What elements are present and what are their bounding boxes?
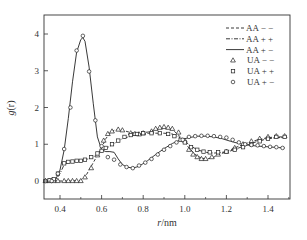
square-marker xyxy=(110,143,113,146)
square-marker xyxy=(202,150,205,153)
circle-marker xyxy=(143,161,147,165)
circle-marker xyxy=(231,138,235,142)
legend-label: AA − − xyxy=(246,23,273,33)
x-tick-label: 0.4 xyxy=(54,204,66,214)
square-marker xyxy=(96,152,99,155)
circle-marker xyxy=(69,106,73,110)
circle-marker xyxy=(131,166,135,170)
square-marker xyxy=(62,162,65,165)
x-axis-label: r/nm xyxy=(157,217,177,228)
circle-marker xyxy=(243,142,247,146)
circle-marker xyxy=(56,172,60,176)
square-marker xyxy=(266,137,269,140)
circle-marker xyxy=(81,34,85,38)
circle-marker xyxy=(150,157,154,161)
circle-marker xyxy=(119,163,123,167)
square-marker xyxy=(123,135,126,138)
series-dashed-line xyxy=(44,128,285,181)
y-tick-label: 0 xyxy=(35,176,40,186)
circle-marker xyxy=(256,144,260,148)
triangle-marker xyxy=(116,127,121,131)
circle-marker xyxy=(168,144,172,148)
x-tick-label: 1.2 xyxy=(221,204,232,214)
series-square-markers xyxy=(44,132,287,183)
legend-item: UA + + xyxy=(231,66,274,76)
triangle-marker xyxy=(83,175,88,179)
square-marker xyxy=(166,132,169,135)
circle-marker xyxy=(193,134,197,138)
square-marker xyxy=(216,151,219,154)
circle-marker xyxy=(162,148,166,152)
circle-marker xyxy=(87,70,91,74)
triangle-marker xyxy=(231,58,236,62)
circle-marker xyxy=(125,165,129,169)
circle-marker xyxy=(50,179,54,183)
square-marker xyxy=(79,159,82,162)
series-dash-dot-line xyxy=(44,133,285,181)
square-marker xyxy=(233,148,236,151)
circle-marker xyxy=(106,155,110,159)
legend-item: UA + − xyxy=(231,77,274,87)
square-marker xyxy=(196,148,199,151)
triangle-marker xyxy=(153,126,158,130)
y-tick-label: 1 xyxy=(35,139,40,149)
circle-marker xyxy=(156,153,160,157)
circle-marker xyxy=(137,164,141,168)
legend-label: AA + − xyxy=(246,45,273,55)
y-axis-label: g(r) xyxy=(5,101,17,116)
circle-marker xyxy=(200,134,204,138)
square-marker xyxy=(150,132,153,135)
rdf-chart: 0.40.60.81.01.21.401234 AA − −AA + +AA +… xyxy=(0,0,307,240)
circle-marker xyxy=(268,145,272,149)
square-marker xyxy=(258,140,261,143)
circle-marker xyxy=(175,141,179,145)
triangle-marker xyxy=(162,124,167,128)
square-marker xyxy=(225,150,228,153)
legend-item: AA + + xyxy=(226,34,273,44)
triangle-marker xyxy=(89,166,94,170)
x-tick-label: 0.8 xyxy=(138,204,150,214)
legend: AA − −AA + +AA + −UA − −UA + +UA + − xyxy=(226,23,274,87)
square-marker xyxy=(83,158,86,161)
triangle-marker xyxy=(166,125,171,129)
x-tick-label: 1.0 xyxy=(179,204,191,214)
legend-label: UA + − xyxy=(247,77,274,87)
square-marker xyxy=(208,151,211,154)
square-marker xyxy=(158,132,161,135)
circle-marker xyxy=(206,134,210,138)
square-marker xyxy=(117,139,120,142)
circle-marker xyxy=(187,135,191,139)
square-marker xyxy=(142,132,145,135)
circle-marker xyxy=(100,144,104,148)
circle-marker xyxy=(262,144,266,148)
circle-marker xyxy=(212,134,216,138)
legend-item: AA + − xyxy=(226,45,273,55)
circle-marker xyxy=(250,143,254,147)
triangle-marker xyxy=(209,155,214,159)
circle-marker xyxy=(94,119,98,123)
circle-marker xyxy=(237,141,241,145)
square-marker xyxy=(90,155,93,158)
triangle-marker xyxy=(120,128,125,132)
legend-item: UA − − xyxy=(231,55,275,65)
square-marker xyxy=(104,146,107,149)
x-tick-label: 0.6 xyxy=(96,204,108,214)
circle-marker xyxy=(75,49,79,53)
legend-item: AA − − xyxy=(226,23,273,33)
x-tick-label: 1.4 xyxy=(262,204,274,214)
square-marker xyxy=(129,133,132,136)
y-tick-label: 4 xyxy=(35,29,40,39)
circle-marker xyxy=(218,135,222,139)
square-marker xyxy=(189,145,192,148)
triangle-marker xyxy=(176,130,181,134)
square-marker xyxy=(135,132,138,135)
square-marker xyxy=(275,135,278,138)
square-marker xyxy=(173,134,176,137)
triangle-marker xyxy=(170,126,175,130)
circle-marker xyxy=(62,147,66,151)
legend-label: AA + + xyxy=(246,34,273,44)
circle-marker xyxy=(225,136,229,140)
circle-marker xyxy=(112,158,116,162)
square-marker xyxy=(231,70,234,73)
triangle-marker xyxy=(62,178,67,182)
